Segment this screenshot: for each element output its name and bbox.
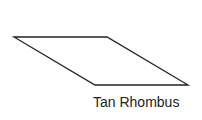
rhombus-shape	[14, 37, 188, 85]
shape-label: Tan Rhombus	[93, 94, 179, 110]
